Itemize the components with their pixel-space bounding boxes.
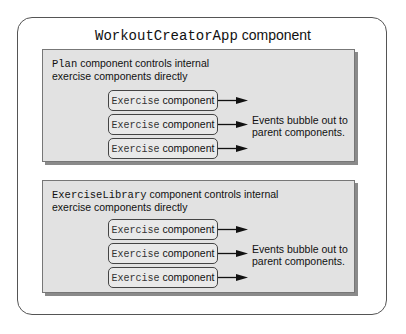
panel-desc-line2: exercise components directly (52, 201, 278, 213)
exercise-library-component-panel: ExerciseLibrary component controls inter… (42, 180, 355, 293)
exercise-component-box: Exercise component (108, 219, 218, 240)
exercise-text: component (160, 142, 215, 154)
exercise-component-box: Exercise component (108, 267, 218, 288)
exercise-component-box: Exercise component (108, 90, 218, 111)
exercise-text: component (160, 247, 215, 259)
exercise-text: component (160, 94, 215, 106)
exercise-code: Exercise (112, 144, 160, 155)
panel-code: Plan (52, 58, 77, 70)
arrow-right-icon (218, 120, 248, 129)
arrow-right-icon (218, 144, 248, 153)
exercise-component-box: Exercise component (108, 243, 218, 264)
exercise-text: component (160, 223, 215, 235)
exercise-component-box: Exercise component (108, 114, 218, 135)
arrow-right-icon (218, 96, 248, 105)
arrow-right-icon (218, 273, 248, 282)
title-text: component (238, 27, 311, 43)
events-note: Events bubble out to parent components. (252, 114, 348, 138)
panel-desc-line1: component controls internal (77, 57, 209, 69)
panel-code: ExerciseLibrary (52, 189, 147, 201)
panel-description: Plan component controls internal exercis… (52, 57, 209, 82)
panel-desc-line1: component controls internal (147, 188, 279, 200)
exercise-code: Exercise (112, 225, 160, 236)
title-code: WorkoutCreatorApp (95, 28, 238, 44)
exercise-text: component (160, 118, 215, 130)
events-line1: Events bubble out to (252, 114, 348, 126)
exercise-component-box: Exercise component (108, 138, 218, 159)
events-line2: parent components. (252, 126, 348, 138)
events-line2: parent components. (252, 255, 348, 267)
exercise-code: Exercise (112, 273, 160, 284)
exercise-code: Exercise (112, 120, 160, 131)
events-note: Events bubble out to parent components. (252, 243, 348, 267)
arrow-right-icon (218, 225, 248, 234)
diagram-title: WorkoutCreatorApp component (0, 27, 406, 44)
arrow-right-icon (218, 249, 248, 258)
plan-component-panel: Plan component controls internal exercis… (42, 49, 355, 162)
panel-desc-line2: exercise components directly (52, 70, 209, 82)
events-line1: Events bubble out to (252, 243, 348, 255)
exercise-text: component (160, 271, 215, 283)
exercise-code: Exercise (112, 249, 160, 260)
exercise-code: Exercise (112, 96, 160, 107)
panel-description: ExerciseLibrary component controls inter… (52, 188, 278, 213)
